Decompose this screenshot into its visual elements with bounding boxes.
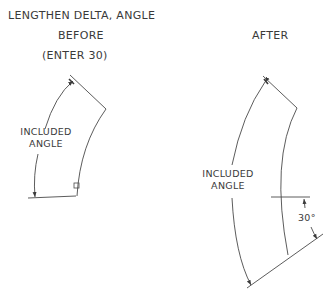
after-arc-segment	[232, 76, 323, 288]
cad-drawing	[0, 0, 323, 290]
before-arc-segment	[28, 75, 106, 198]
